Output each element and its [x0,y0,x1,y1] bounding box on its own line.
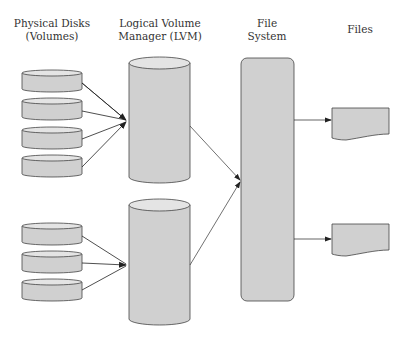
logical-volume-2 [129,199,190,325]
physical-disk-6 [22,251,82,273]
physical-disk-2 [22,98,82,120]
physical-disk-1 [22,70,82,92]
file-1 [332,108,389,140]
lvm-to-filesystem-arrows [190,126,240,265]
filesystem-to-files-arrows [294,120,331,239]
file-system [241,58,294,301]
physical-disk-7 [22,279,82,301]
physical-disk-4 [22,155,82,177]
logical-volume-1 [129,57,190,183]
disk-to-lvm-arrows-2 [82,236,126,290]
lvm-diagram [0,0,407,341]
physical-disk-3 [22,127,82,149]
physical-disk-5 [22,223,82,245]
disk-to-lvm-arrows-1 [82,83,126,167]
file-2 [332,224,389,256]
